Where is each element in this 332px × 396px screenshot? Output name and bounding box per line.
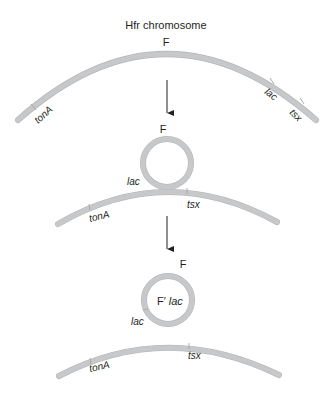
f-label: F bbox=[180, 258, 187, 270]
f-prime-formation-diagram: Hfr chromosome F tonA lac tsx F lac tonA… bbox=[0, 0, 332, 396]
plasmid-gene-text: lac bbox=[169, 295, 184, 307]
panel-f-prime: F F′lac lac tonA tsx bbox=[59, 258, 279, 376]
lac-label: lac bbox=[131, 316, 144, 327]
f-loop bbox=[143, 139, 191, 187]
f-prime-label: F′lac bbox=[157, 295, 183, 307]
tsx-label: tsx bbox=[187, 199, 201, 210]
panel-loop-out: F lac tonA tsx bbox=[58, 123, 277, 224]
diagram-title: Hfr chromosome bbox=[125, 19, 206, 31]
lac-label: lac bbox=[127, 176, 140, 187]
f-prime-text: F′ bbox=[157, 295, 166, 307]
f-label: F bbox=[163, 36, 170, 48]
tsx-marker bbox=[300, 98, 304, 104]
f-label: F bbox=[160, 123, 167, 135]
tsx-label: tsx bbox=[188, 350, 202, 361]
